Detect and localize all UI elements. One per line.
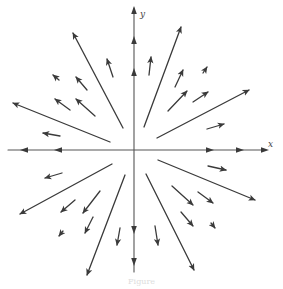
vector-arrow-upper-left: [107, 59, 113, 77]
vector-arrow-upper-left: [76, 77, 87, 90]
vector-arrow-lower-left: [117, 228, 120, 245]
y-axis-label: y: [140, 9, 145, 19]
vector-arrow-lower-right: [172, 186, 193, 205]
vector-arrow-lower-left: [45, 173, 62, 178]
vector-arrow-lower-right: [198, 192, 213, 203]
vector-arrow-upper-left: [13, 103, 110, 142]
vector-arrow-upper-right: [149, 57, 151, 75]
x-axis-label: x: [268, 139, 273, 149]
x-axis-arrow-icon: [20, 147, 28, 153]
vector-arrow-upper-right: [168, 91, 187, 111]
vector-arrow-upper-right: [203, 67, 207, 73]
vector-arrow-lower-right: [208, 166, 226, 170]
y-axis-arrow-icon: [131, 6, 137, 14]
figure-caption: Figure: [0, 277, 283, 286]
vector-arrow-upper-right: [207, 124, 224, 129]
vector-arrow-upper-left: [53, 75, 59, 80]
vector-arrow-lower-left: [20, 164, 112, 214]
vector-arrow-lower-right: [158, 160, 255, 200]
vector-arrow-upper-left: [43, 133, 60, 136]
coordinate-axes: [8, 6, 269, 272]
y-axis-arrow-icon: [131, 258, 137, 266]
vector-arrow-upper-left: [76, 99, 95, 116]
vector-arrow-lower-right: [211, 223, 215, 228]
y-axis-arrow-icon: [131, 226, 137, 234]
vector-field-diagram: [0, 0, 283, 289]
vector-arrow-lower-left: [61, 200, 75, 212]
vector-arrow-lower-left: [87, 175, 125, 275]
vector-arrow-lower-left: [85, 217, 93, 233]
vector-arrow-lower-right: [181, 212, 193, 226]
vector-arrow-lower-left: [83, 191, 100, 213]
vector-arrow-lower-left: [59, 231, 63, 236]
x-axis-arrow-icon: [236, 147, 244, 153]
vector-arrow-upper-right: [193, 92, 208, 102]
vector-arrow-upper-left: [73, 33, 123, 128]
vector-arrow-upper-right: [144, 27, 181, 127]
y-axis-arrow-icon: [131, 36, 137, 44]
x-axis-arrow-icon: [54, 147, 62, 153]
x-axis-arrow-icon: [206, 147, 214, 153]
vector-arrow-upper-right: [175, 70, 183, 87]
vector-arrow-lower-right: [155, 226, 158, 245]
vector-arrow-upper-right: [157, 90, 249, 138]
vector-arrow-upper-left: [55, 99, 70, 110]
y-axis-arrow-icon: [131, 68, 137, 76]
vector-arrow-lower-right: [146, 174, 194, 270]
